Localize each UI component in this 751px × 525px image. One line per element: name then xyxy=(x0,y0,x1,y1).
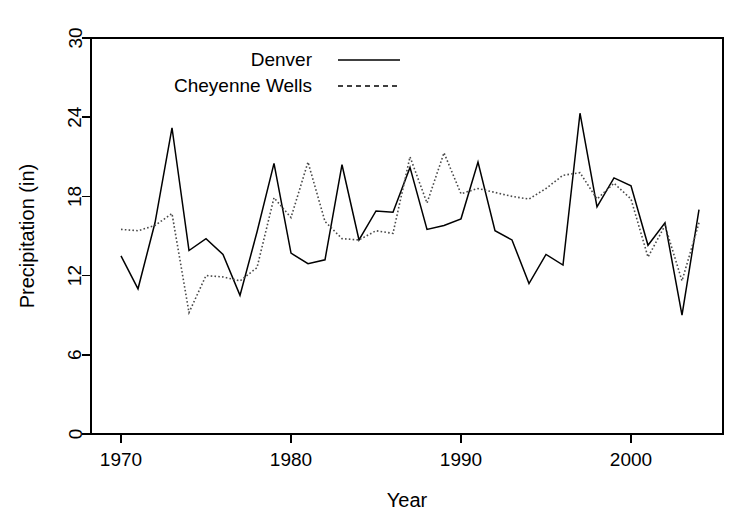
plot-frame xyxy=(91,38,723,434)
y-axis-title: Precipitation (in) xyxy=(16,164,38,309)
y-tick-label: 24 xyxy=(65,106,86,128)
x-tick-label: 1970 xyxy=(100,449,142,470)
y-axis-ticks: 0612182430 xyxy=(65,27,92,439)
legend-label-denver: Denver xyxy=(251,49,313,70)
y-tick-label: 0 xyxy=(65,429,86,440)
y-tick-label: 6 xyxy=(65,350,86,361)
x-tick-label: 1990 xyxy=(440,449,482,470)
x-axis-ticks: 1970198019902000 xyxy=(100,434,652,470)
x-axis-title: Year xyxy=(387,489,428,511)
chart-legend: Denver Cheyenne Wells xyxy=(174,49,400,96)
y-tick-label: 30 xyxy=(65,27,86,48)
precipitation-line-chart: 0612182430 1970198019902000 Precipitatio… xyxy=(0,0,751,525)
x-tick-label: 1980 xyxy=(270,449,312,470)
series-line-cheyenne-wells xyxy=(121,153,699,313)
series-line-denver xyxy=(121,113,699,315)
chart-canvas: 0612182430 1970198019902000 Precipitatio… xyxy=(0,0,751,525)
legend-label-cheyenne-wells: Cheyenne Wells xyxy=(174,75,312,96)
y-tick-label: 12 xyxy=(65,265,86,286)
x-tick-label: 2000 xyxy=(610,449,652,470)
y-tick-label: 18 xyxy=(65,186,86,207)
